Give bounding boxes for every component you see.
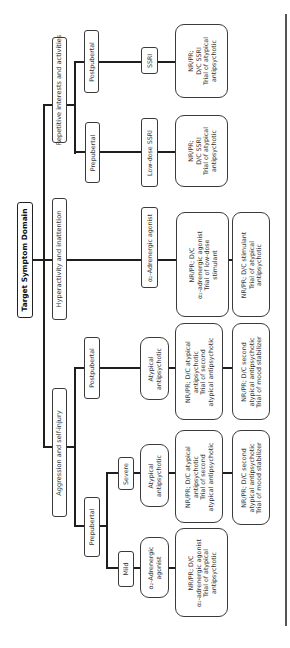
agg-prepubertal-node: Prepubertal: [84, 497, 100, 557]
rep-pre-next-step: NR/PR; D/C SSRI Trial of atypical antips…: [175, 115, 228, 187]
page-border-line: [285, 14, 287, 626]
hyper-treatment-node: α₂-Adrenergic agonist: [141, 207, 158, 288]
severe-label: Severe: [122, 463, 130, 485]
agg-post-third-step-text: NR/PR; D/C second atypical antipsychotic…: [240, 336, 263, 407]
mild-label: Mild: [122, 563, 130, 576]
domain-aggression: Aggression and self-injury: [52, 388, 67, 517]
mild-node: Mild: [118, 551, 134, 587]
rep-lowdose-ssri-label: Low-dose SSRI: [146, 130, 154, 176]
severe-next-step: NR/PR; D/C atypical antipsychotic Trial …: [175, 430, 223, 523]
rep-post-next-step-text: NR/PR; D/C SSRI Trial of atypical antips…: [186, 37, 216, 85]
agg-post-next-step: NR/PR; D/C atypical antipsychotic Trial …: [175, 323, 223, 420]
agg-post-next-step-text: NR/PR; D/C atypical antipsychotic Trial …: [184, 337, 214, 406]
agg-post-third-step: NR/PR; D/C second atypical antipsychotic…: [232, 323, 270, 420]
domain-repetitive-label: Repetitive interests and activities: [56, 35, 64, 146]
rep-ssri-node: SSRI: [141, 47, 158, 74]
hyper-third-step-text: NR/PR; D/C stimulant Trial of atypical a…: [240, 231, 263, 298]
rep-prepubertal-node: Prepubertal: [85, 122, 100, 183]
root-label: Target Symptom Domain: [21, 209, 29, 312]
rep-pre-next-step-text: NR/PR; D/C SSRI Trial of atypical antips…: [186, 127, 216, 175]
rep-postpubertal-label: Postpubertal: [88, 42, 96, 82]
severe-node: Severe: [118, 457, 134, 490]
rep-post-next-step: NR/PR; D/C SSRI Trial of atypical antips…: [175, 24, 228, 98]
rep-postpubertal-node: Postpubertal: [84, 30, 99, 93]
agg-post-treatment-node: Atypical antipsychotic: [140, 337, 169, 400]
agg-split: [74, 367, 76, 527]
rep-ssri-label: SSRI: [146, 53, 154, 67]
hyper-next-step: NR/PR; D/C α₂-adrenergic agonist Trial o…: [176, 212, 229, 317]
rep-prepubertal-label: Prepubertal: [89, 134, 97, 171]
hyper-treatment-label: α₂-Adrenergic agonist: [146, 213, 154, 281]
treatment-flowchart: Target Symptom Domain Repetitive interes…: [0, 0, 290, 648]
rep-lowdose-ssri-node: Low-dose SSRI: [141, 118, 158, 187]
agg-postpubertal-node: Postpubertal: [84, 337, 100, 399]
severe-treatment-label: Atypical antipsychotic: [147, 454, 162, 496]
agg-pre-split: [106, 472, 108, 569]
mild-next-step: NR/PR; D/C α₂-adrenergic agonist Trial o…: [175, 528, 228, 617]
domain-aggression-label: Aggression and self-injury: [56, 410, 64, 495]
agg-post-treatment-label: Atypical antipsychotic: [147, 347, 162, 389]
domain-hyperactivity: Hyperactivity and inattention: [52, 198, 67, 320]
rep-split: [74, 61, 76, 154]
severe-treatment-node: Atypical antipsychotic: [140, 444, 169, 507]
root-node: Target Symptom Domain: [17, 202, 33, 318]
mild-treatment-label: α₂-Adrenergic agonist: [147, 546, 162, 589]
severe-third-step: NR/PR; D/C second atypical antipsychotic…: [232, 430, 270, 525]
mild-next-step-text: NR/PR; D/C α₂-adrenergic agonist Trial o…: [186, 539, 216, 607]
domain-repetitive: Repetitive interests and activities: [52, 37, 67, 143]
hyper-next-step-text: NR/PR; D/C α₂-adrenergic agonist Trial o…: [187, 231, 217, 299]
agg-prepubertal-label: Prepubertal: [88, 509, 96, 546]
trunk-line: [43, 105, 45, 448]
agg-postpubertal-label: Postpubertal: [88, 348, 96, 388]
severe-next-step-text: NR/PR; D/C atypical antipsychotic Trial …: [184, 442, 214, 511]
mild-treatment-node: α₂-Adrenergic agonist: [140, 537, 169, 598]
domain-hyperactivity-label: Hyperactivity and inattention: [56, 211, 64, 308]
hyper-third-step: NR/PR; D/C stimulant Trial of atypical a…: [232, 212, 270, 317]
severe-third-step-text: NR/PR; D/C second atypical antipsychotic…: [240, 442, 263, 513]
